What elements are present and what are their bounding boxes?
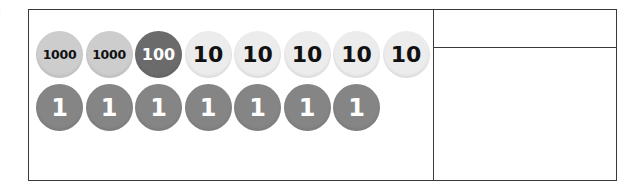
- counter-value: 1: [249, 94, 266, 122]
- counter-one: 1: [36, 84, 83, 131]
- answer-box-top[interactable]: [435, 11, 615, 46]
- counter-ten: 10: [284, 31, 331, 78]
- answer-box-bottom[interactable]: [435, 50, 615, 179]
- counter-value: 1: [150, 94, 167, 122]
- counter-value: 1000: [92, 47, 126, 62]
- counter-value: 1: [51, 94, 68, 122]
- question-label-fragment: ): [0, 4, 1, 20]
- counter-hundred: 100: [135, 31, 182, 78]
- counter-one: 1: [234, 84, 281, 131]
- counter-value: 10: [242, 42, 273, 67]
- counter-one: 1: [185, 84, 232, 131]
- counter-row-1: 1000 1000 100 10 10 10 10 10: [36, 31, 430, 78]
- counter-value: 1: [200, 94, 217, 122]
- counter-value: 1: [101, 94, 118, 122]
- counter-value: 100: [142, 45, 175, 64]
- counter-value: 10: [193, 42, 224, 67]
- counter-value: 1: [348, 94, 365, 122]
- counter-value: 10: [341, 42, 372, 67]
- counter-row-2: 1 1 1 1 1 1 1: [36, 84, 380, 131]
- counter-value: 10: [391, 42, 422, 67]
- counter-one: 1: [333, 84, 380, 131]
- counter-ten: 10: [185, 31, 232, 78]
- counter-one: 1: [135, 84, 182, 131]
- counter-ten: 10: [383, 31, 430, 78]
- counter-ten: 10: [234, 31, 281, 78]
- counter-value: 1: [299, 94, 316, 122]
- counter-ten: 10: [333, 31, 380, 78]
- horizontal-divider: [433, 47, 617, 48]
- vertical-divider: [433, 9, 434, 181]
- counter-one: 1: [86, 84, 133, 131]
- counter-value: 1000: [43, 47, 77, 62]
- counter-one: 1: [284, 84, 331, 131]
- counter-value: 10: [292, 42, 323, 67]
- counter-thousand: 1000: [36, 31, 83, 78]
- counter-thousand: 1000: [86, 31, 133, 78]
